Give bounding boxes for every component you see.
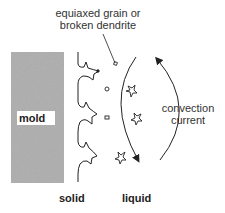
convection-line-2: current — [158, 114, 218, 126]
mold-label: mold — [17, 111, 55, 125]
liquid-label: liquid — [122, 192, 151, 204]
grain-star-2 — [131, 113, 142, 125]
grain-square — [105, 116, 109, 119]
annotation-line-2: broken dendrite — [48, 19, 148, 31]
convection-arrow-down — [121, 57, 138, 160]
solid-label: solid — [59, 192, 85, 204]
convection-current-label: convection current — [158, 102, 218, 126]
grain-star-1 — [126, 85, 137, 97]
annotation-label: equiaxed grain or broken dendrite — [48, 7, 148, 31]
annotation-line-1: equiaxed grain or — [48, 7, 148, 19]
grain-round — [105, 87, 109, 91]
annotation-leader-line — [103, 34, 115, 63]
equiaxed-grain-marker — [114, 62, 118, 66]
dendrite-front — [78, 52, 99, 182]
grain-star-3 — [115, 152, 126, 164]
convection-line-1: convection — [158, 102, 218, 114]
